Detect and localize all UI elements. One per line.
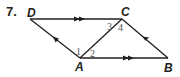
angle-label-2: 2 [90, 48, 95, 59]
point-label-b: B [164, 61, 173, 75]
arrow-mark-icon [53, 37, 59, 43]
arrow-mark-icon [128, 56, 134, 61]
geometry-diagram: 7. D C A B 1 2 3 4 [0, 0, 180, 77]
segment-ac [80, 19, 122, 58]
angle-label-3: 3 [107, 21, 112, 32]
point-label-a: A [74, 60, 84, 74]
point-label-c: C [121, 5, 130, 19]
angle-label-1: 1 [76, 46, 81, 57]
arrow-mark-icon [79, 17, 85, 22]
point-label-d: D [27, 6, 36, 20]
angle-label-4: 4 [118, 22, 123, 33]
arrow-mark-icon [143, 37, 150, 41]
problem-number: 7. [6, 4, 17, 19]
